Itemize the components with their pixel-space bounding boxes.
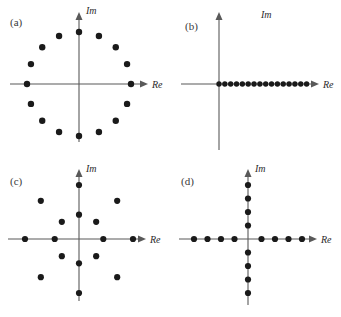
constellation-point — [96, 33, 102, 39]
constellation-point — [56, 33, 62, 39]
imaginary-axis-arrow — [76, 12, 83, 20]
constellation-point — [52, 236, 58, 242]
constellation-point — [56, 129, 62, 135]
constellation-point — [240, 81, 245, 86]
real-axis-label: Re — [322, 79, 334, 90]
constellation-point — [304, 81, 309, 86]
constellation-point — [24, 81, 30, 87]
constellation-point — [234, 81, 239, 86]
constellation-point — [245, 290, 251, 296]
constellation-point — [96, 129, 102, 135]
constellation-point — [22, 236, 28, 242]
panel-d: Re Im (d) — [171, 159, 341, 317]
constellation-point — [269, 81, 274, 86]
panel-label: (b) — [185, 20, 198, 33]
real-axis-label: Re — [320, 234, 332, 245]
imaginary-axis-label: Im — [85, 163, 97, 174]
constellation-point — [222, 81, 227, 86]
real-axis-arrow — [138, 236, 146, 243]
constellation-point — [28, 61, 34, 67]
constellation-point — [245, 263, 251, 269]
constellation-point — [231, 236, 237, 242]
constellation-point — [76, 182, 82, 188]
constellation-point — [59, 253, 65, 259]
real-axis-label: Re — [149, 234, 161, 245]
constellation-point — [130, 236, 136, 242]
constellation-point — [76, 290, 82, 296]
panel-a: Re Im (a) — [0, 0, 170, 158]
constellation-point — [93, 253, 99, 259]
constellation-point — [28, 101, 34, 107]
constellation-point — [245, 249, 251, 255]
constellation-point — [38, 274, 44, 280]
constellation-point — [204, 236, 210, 242]
real-axis-arrow — [309, 236, 317, 243]
panel-a-plot: Re Im (a) — [0, 0, 170, 158]
real-axis-label: Re — [151, 79, 163, 90]
constellation-point — [218, 236, 224, 242]
constellation-point — [39, 44, 45, 50]
constellation-point — [245, 209, 251, 215]
constellation-point — [124, 101, 130, 107]
imaginary-axis-label: Im — [254, 163, 266, 174]
constellation-point — [216, 81, 221, 86]
constellation-point — [191, 236, 197, 242]
imaginary-axis-arrow — [216, 12, 223, 20]
constellation-point — [38, 198, 44, 204]
panel-c-axes — [8, 169, 146, 301]
constellation-point — [258, 236, 264, 242]
constellation-point — [245, 222, 251, 228]
panel-label: (a) — [10, 16, 23, 29]
imaginary-axis-label: Im — [85, 5, 97, 16]
panel-label: (d) — [181, 175, 194, 188]
constellation-point — [299, 236, 305, 242]
constellation-point — [263, 81, 268, 86]
constellation-point — [124, 61, 130, 67]
constellation-point — [76, 133, 82, 139]
constellation-figure: Re Im (a) Re Im (b) — [0, 0, 341, 317]
constellation-point — [39, 118, 45, 124]
constellation-point — [76, 212, 82, 218]
constellation-point — [275, 81, 280, 86]
constellation-point — [245, 182, 251, 188]
constellation-point — [298, 81, 303, 86]
panel-label: (c) — [10, 175, 23, 188]
panel-c-plot: Re Im (c) — [0, 159, 170, 317]
constellation-point — [114, 198, 120, 204]
constellation-point — [113, 44, 119, 50]
panel-d-axes — [179, 169, 317, 305]
imaginary-axis-label: Im — [260, 9, 272, 20]
constellation-point — [128, 81, 134, 87]
constellation-point — [100, 236, 106, 242]
constellation-point — [272, 236, 278, 242]
imaginary-axis-arrow — [76, 169, 83, 177]
constellation-point — [113, 118, 119, 124]
panel-b-plot: Re Im (b) — [171, 0, 341, 158]
constellation-point — [114, 274, 120, 280]
imaginary-axis-arrow — [245, 169, 252, 177]
real-axis-arrow — [140, 81, 148, 88]
panel-d-plot: Re Im (d) — [171, 159, 341, 317]
constellation-point — [281, 81, 286, 86]
constellation-point — [251, 81, 256, 86]
constellation-point — [245, 276, 251, 282]
constellation-point — [59, 219, 65, 225]
constellation-point — [257, 81, 262, 86]
constellation-point — [245, 195, 251, 201]
constellation-point — [76, 260, 82, 266]
constellation-point — [228, 81, 233, 86]
constellation-point — [292, 81, 297, 86]
constellation-point — [76, 29, 82, 35]
panel-c: Re Im (c) — [0, 159, 170, 317]
constellation-point — [285, 236, 291, 242]
constellation-point — [93, 219, 99, 225]
constellation-point — [246, 81, 251, 86]
real-axis-arrow — [311, 81, 319, 88]
panel-b: Re Im (b) — [171, 0, 341, 158]
panel-b-axes — [181, 12, 319, 150]
constellation-point — [286, 81, 291, 86]
